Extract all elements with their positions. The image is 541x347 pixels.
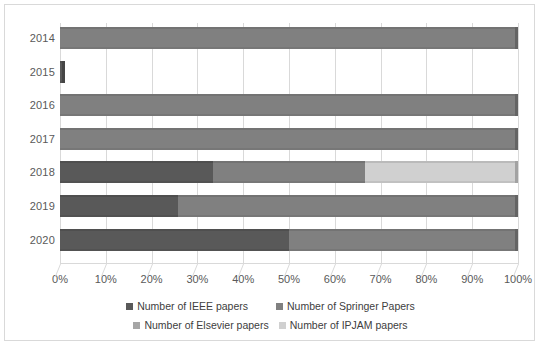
y-axis-label: 2016 <box>13 99 55 111</box>
legend-label: Number of Springer Papers <box>287 300 415 312</box>
legend-swatch-icon <box>126 303 133 310</box>
x-axis-label: 40% <box>221 273 265 285</box>
bar-track <box>60 161 518 183</box>
x-axis-label: 70% <box>359 273 403 285</box>
x-axis-label: 10% <box>84 273 128 285</box>
bar-row <box>60 195 518 217</box>
y-axis-label: 2018 <box>13 166 55 178</box>
bar-track <box>60 27 518 49</box>
bar-row <box>60 61 65 83</box>
y-axis-label: 2019 <box>13 200 55 212</box>
bar-row <box>60 94 518 116</box>
legend-label: Number of Elsevier papers <box>144 319 268 331</box>
bar-segment[interactable] <box>60 94 518 116</box>
legend-item[interactable]: Number of Elsevier papers <box>133 319 268 331</box>
x-axis-label: 50% <box>267 273 311 285</box>
legend-row: Number of IEEE papersNumber of Springer … <box>5 297 536 315</box>
legend-row: Number of Elsevier papersNumber of IPJAM… <box>5 316 536 334</box>
bar-row <box>60 128 518 150</box>
x-axis-label: 100% <box>496 273 540 285</box>
bar-segment[interactable] <box>365 161 518 183</box>
bar-segment[interactable] <box>60 195 178 217</box>
y-axis-label: 2020 <box>13 234 55 246</box>
y-axis-label: 2015 <box>13 66 55 78</box>
x-axis-label: 20% <box>130 273 174 285</box>
x-axis-label: 90% <box>450 273 494 285</box>
bar-row <box>60 229 518 251</box>
x-axis-label: 30% <box>175 273 219 285</box>
legend-label: Number of IEEE papers <box>137 300 248 312</box>
x-axis-label: 80% <box>404 273 448 285</box>
x-axis-label: 60% <box>313 273 357 285</box>
legend-item[interactable]: Number of IPJAM papers <box>279 319 408 331</box>
bar-row <box>60 27 518 49</box>
x-axis-label: 0% <box>38 273 82 285</box>
bar-track <box>60 128 518 150</box>
chart-container: 2014201520162017201820192020 0%10%20%30%… <box>4 4 535 341</box>
bar-segment[interactable] <box>60 128 518 150</box>
gridline <box>518 23 519 263</box>
bar-row <box>60 161 518 183</box>
bar-segment[interactable] <box>289 229 518 251</box>
legend-swatch-icon <box>279 322 286 329</box>
bar-track <box>60 61 65 83</box>
legend-item[interactable]: Number of IEEE papers <box>126 300 248 312</box>
bar-track <box>60 229 518 251</box>
legend-item[interactable]: Number of Springer Papers <box>276 300 415 312</box>
bar-segment[interactable] <box>60 27 518 49</box>
y-axis-label: 2017 <box>13 133 55 145</box>
legend-label: Number of IPJAM papers <box>290 319 408 331</box>
bar-segment[interactable] <box>213 161 366 183</box>
legend-swatch-icon <box>133 322 140 329</box>
bar-segment[interactable] <box>178 195 518 217</box>
plot-area <box>60 23 518 263</box>
bar-track <box>60 94 518 116</box>
legend-swatch-icon <box>276 303 283 310</box>
bar-segment[interactable] <box>60 61 65 83</box>
bar-track <box>60 195 518 217</box>
bar-segment[interactable] <box>60 161 213 183</box>
y-axis-label: 2014 <box>13 32 55 44</box>
bar-segment[interactable] <box>60 229 289 251</box>
